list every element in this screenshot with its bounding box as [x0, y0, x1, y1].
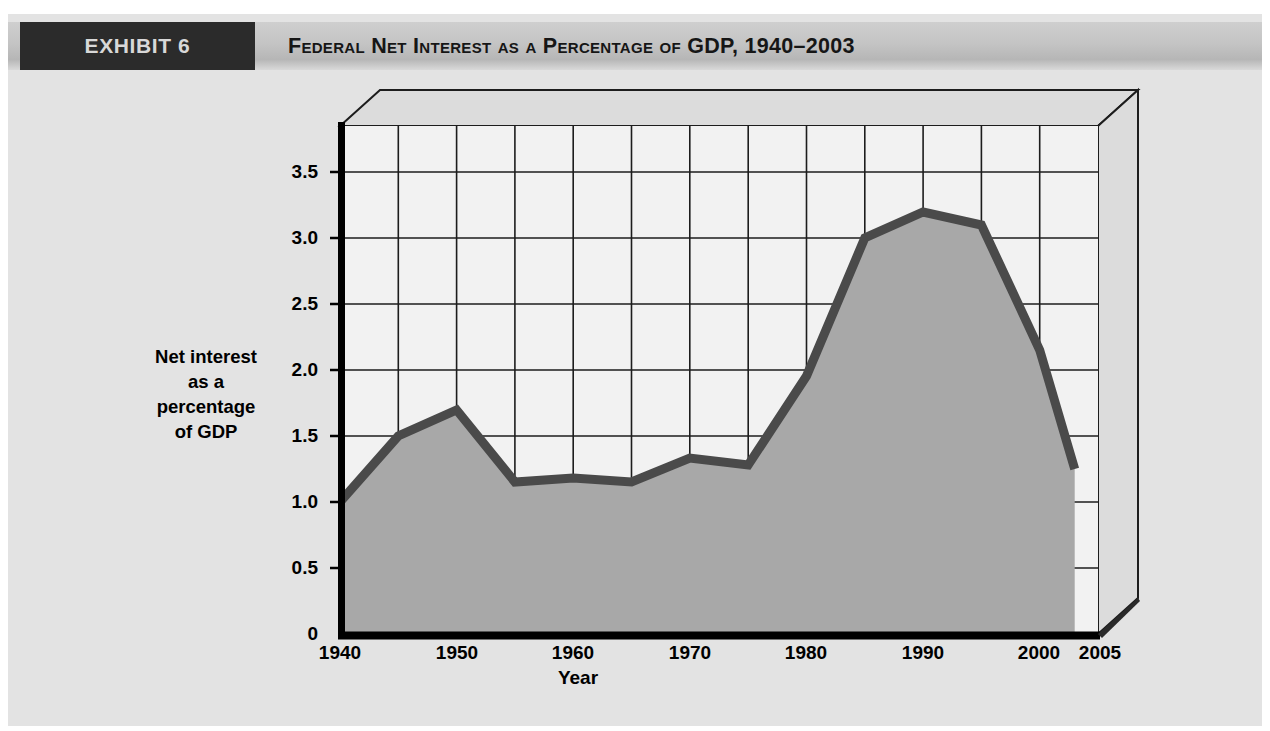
x-tick-label: 1960: [533, 642, 613, 664]
y-axis-label-line: of GDP: [126, 419, 286, 444]
exhibit-number-label: EXHIBIT 6: [85, 34, 191, 58]
y-axis-label: Net interest as a percentage of GDP: [126, 344, 286, 444]
x-tick-label: 1940: [300, 642, 380, 664]
exhibit-figure: EXHIBIT 6 Federal Net Interest as a Perc…: [0, 0, 1270, 731]
chart-title: Federal Net Interest as a Percentage of …: [288, 22, 855, 70]
x-tick-label: 1970: [650, 642, 730, 664]
y-axis-label-line: Net interest: [126, 344, 286, 369]
y-tick-label: 3.5: [258, 161, 318, 183]
exhibit-number-tab: EXHIBIT 6: [20, 22, 255, 70]
y-axis-label-line: as a: [126, 369, 286, 394]
x-tick-label: 1950: [417, 642, 497, 664]
plot-right-face: [1098, 90, 1138, 634]
x-axis-label: Year: [8, 667, 1148, 689]
x-tick-label: 2005: [1060, 642, 1140, 664]
chart-stage: 3.5 3.0 2.5 2.0 1.5 1.0 0.5 0 Net intere…: [8, 70, 1262, 726]
x-tick-label: 1990: [883, 642, 963, 664]
x-tick-label: 1980: [766, 642, 846, 664]
plot-top-face: [340, 90, 1138, 126]
y-tick-label: 0.5: [258, 557, 318, 579]
y-tick-label: 3.0: [258, 227, 318, 249]
exhibit-header: EXHIBIT 6 Federal Net Interest as a Perc…: [8, 22, 1262, 70]
y-tick-label: 1.0: [258, 491, 318, 513]
y-tick-label: 2.5: [258, 293, 318, 315]
y-axis-label-line: percentage: [126, 394, 286, 419]
